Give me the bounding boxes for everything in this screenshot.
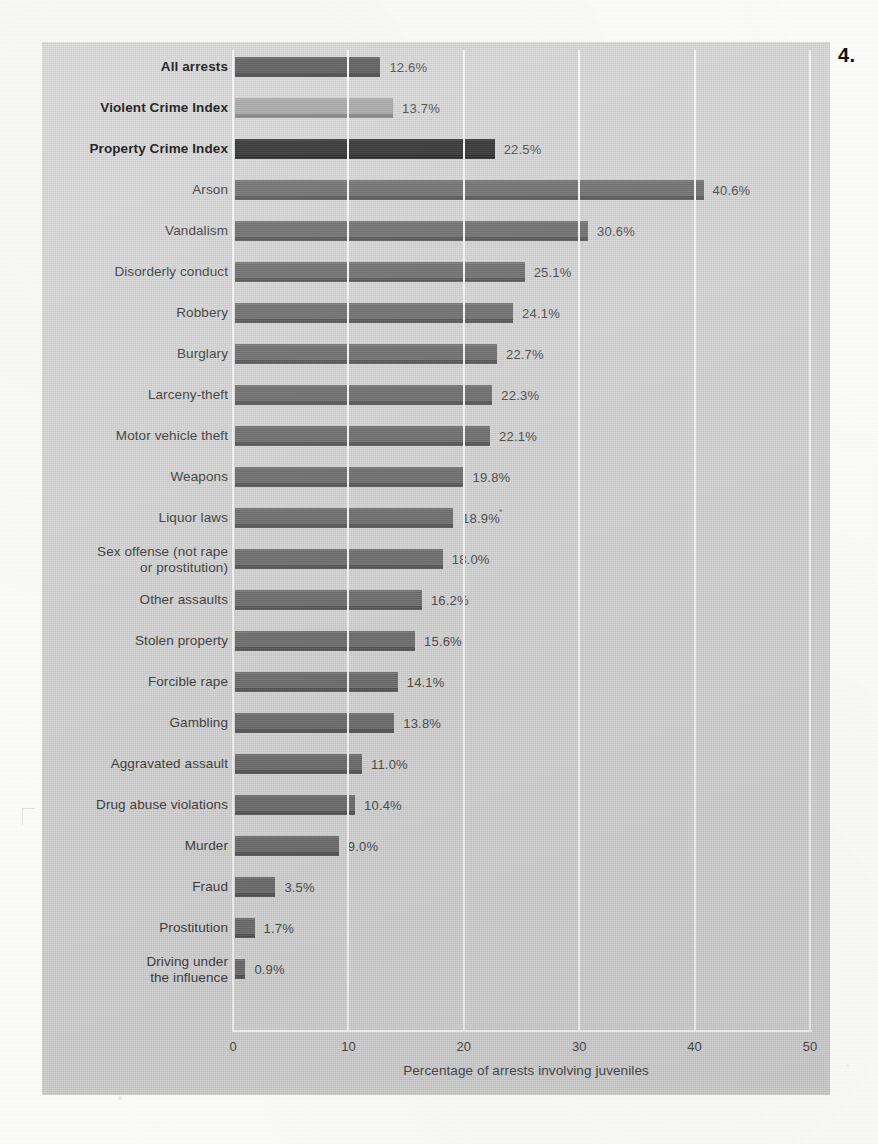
gridline (809, 50, 811, 1032)
bar (235, 590, 422, 610)
bar (235, 385, 492, 405)
bar (235, 57, 380, 77)
bar (235, 672, 398, 692)
bar-value-label: 22.1% (499, 429, 537, 444)
bar-value-label: 3.5% (284, 880, 314, 895)
category-label: Fraud (42, 879, 228, 894)
category-label: All arrests (42, 59, 228, 74)
bar (235, 262, 525, 282)
margin-stray-mark (22, 808, 35, 825)
category-label: Vandalism (42, 223, 228, 238)
chart-row: Prostitution1.7% (42, 917, 830, 958)
chart-row: Robbery24.1% (42, 302, 830, 343)
bar (235, 426, 490, 446)
category-label: Murder (42, 838, 228, 853)
category-label: Liquor laws (42, 510, 228, 525)
bar (235, 918, 255, 938)
x-tick-label: 50 (803, 1039, 817, 1054)
chart-row: Arson40.6% (42, 179, 830, 220)
bar-value-label: 24.1% (522, 306, 560, 321)
chart-row: Stolen property15.6% (42, 630, 830, 671)
chart-row: Larceny-theft22.3% (42, 384, 830, 425)
x-tick-label: 0 (229, 1039, 236, 1054)
chart-row: Disorderly conduct25.1% (42, 261, 830, 302)
bar-value-label: 15.6% (424, 634, 462, 649)
chart-row: Drug abuse violations10.4% (42, 794, 830, 835)
bar-value-label: 0.9% (254, 962, 284, 977)
chart-panel: All arrests12.6%Violent Crime Index13.7%… (42, 42, 830, 1095)
gridline (578, 50, 580, 1032)
bar (235, 180, 704, 200)
bar (235, 508, 453, 528)
gridline (232, 50, 234, 1032)
category-label: Prostitution (42, 920, 228, 935)
bar-value-label: 1.7% (264, 921, 294, 936)
chart-row: Aggravated assault11.0% (42, 753, 830, 794)
x-axis-title: Percentage of arrests involving juvenile… (42, 1063, 830, 1078)
chart-row: Burglary22.7% (42, 343, 830, 384)
category-label: Motor vehicle theft (42, 428, 228, 443)
bar-value-label: 18.0% (452, 552, 490, 567)
chart-row: Fraud3.5% (42, 876, 830, 917)
gridline (347, 50, 349, 1032)
chart-row: Weapons19.8% (42, 466, 830, 507)
bar-value-label: 13.7% (402, 101, 440, 116)
bar-value-label: 22.3% (501, 388, 539, 403)
bar (235, 344, 497, 364)
x-tick-label: 20 (457, 1039, 471, 1054)
category-label: Larceny-theft (42, 387, 228, 402)
category-label: Sex offense (not rapeor prostitution) (42, 544, 228, 576)
chart-row: All arrests12.6% (42, 56, 830, 97)
category-label: Stolen property (42, 633, 228, 648)
bar (235, 795, 355, 815)
category-label: Forcible rape (42, 674, 228, 689)
bar-value-label: 11.0% (371, 757, 408, 772)
category-label: Burglary (42, 346, 228, 361)
category-label: Aggravated assault (42, 756, 228, 771)
bar (235, 836, 339, 856)
bar-value-label: 13.8% (403, 716, 441, 731)
bar-value-label: 19.8% (472, 470, 510, 485)
bar (235, 303, 513, 323)
category-label: Drug abuse violations (42, 797, 228, 812)
bar (235, 139, 495, 159)
category-label: Weapons (42, 469, 228, 484)
margin-speck-a (118, 1096, 122, 1100)
bar (235, 877, 275, 897)
chart-row: Vandalism30.6% (42, 220, 830, 261)
chart-row: Other assaults16.2% (42, 589, 830, 630)
bar-value-label: 18.9% (462, 511, 500, 526)
margin-speck-b (846, 1064, 849, 1067)
x-tick-label: 30 (572, 1039, 586, 1054)
category-label: Robbery (42, 305, 228, 320)
bar-value-label: 40.6% (713, 183, 751, 198)
x-tick-label: 40 (687, 1039, 701, 1054)
bar (235, 713, 394, 733)
chart-row: Violent Crime Index13.7% (42, 97, 830, 138)
chart-row: Sex offense (not rapeor prostitution)18.… (42, 548, 830, 589)
chart-row: Liquor laws18.9%* (42, 507, 830, 548)
bar-value-label: 25.1% (534, 265, 572, 280)
category-label: Driving underthe influence (42, 954, 228, 986)
x-axis-line (233, 1030, 812, 1032)
bar (235, 754, 362, 774)
bar-value-label: 12.6% (389, 60, 427, 75)
category-label: Gambling (42, 715, 228, 730)
scanned-page: 4. All arrests12.6%Violent Crime Index13… (0, 0, 878, 1144)
chart-row: Driving underthe influence0.9% (42, 958, 830, 999)
figure-number: 4. (838, 44, 855, 67)
bar (235, 631, 415, 651)
x-tick-label: 10 (341, 1039, 355, 1054)
bar (235, 98, 393, 118)
category-label: Other assaults (42, 592, 228, 607)
bar-value-label: 22.7% (506, 347, 544, 362)
plot-area: All arrests12.6%Violent Crime Index13.7%… (42, 42, 830, 1095)
gridline (694, 50, 696, 1032)
category-label: Disorderly conduct (42, 264, 228, 279)
category-label: Arson (42, 182, 228, 197)
bar-value-label: 10.4% (364, 798, 402, 813)
bar (235, 959, 245, 979)
chart-row: Murder9.0% (42, 835, 830, 876)
chart-row: Motor vehicle theft22.1% (42, 425, 830, 466)
category-label: Violent Crime Index (42, 100, 228, 115)
